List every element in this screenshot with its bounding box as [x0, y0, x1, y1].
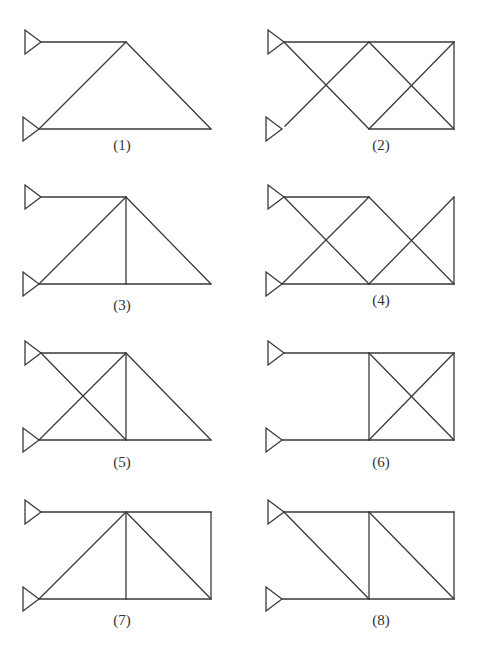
lower-pin-support-icon	[266, 428, 282, 452]
panel-label: (2)	[372, 137, 390, 154]
panel-6: (6)	[266, 341, 454, 471]
panel-label: (8)	[372, 612, 390, 629]
lower-pin-support-icon	[266, 587, 282, 611]
member-A-D	[284, 512, 369, 599]
panel-label: (7)	[113, 612, 131, 629]
panel-label: (3)	[113, 297, 131, 314]
lower-pin-support-icon	[23, 587, 39, 611]
panel-label: (5)	[113, 454, 131, 471]
upper-pin-support-icon	[268, 341, 284, 365]
upper-pin-support-icon	[268, 185, 284, 209]
panel-label: (1)	[113, 137, 131, 154]
upper-pin-support-icon	[25, 185, 41, 209]
upper-pin-support-icon	[25, 30, 41, 54]
member-B-C	[39, 512, 126, 599]
lower-pin-support-icon	[23, 428, 39, 452]
panel-2: (2)	[266, 30, 454, 154]
panel-1: (1)	[23, 30, 211, 154]
truss-figure: (1) (2) (3) (4) (5) (6) (7) (8)	[0, 0, 483, 654]
panel-7: (7)	[23, 500, 211, 629]
member-B-C	[39, 197, 126, 284]
lower-pin-support-icon	[266, 272, 282, 296]
panel-4: (4)	[266, 185, 454, 309]
member-B-C	[285, 42, 369, 126]
member-C-F	[126, 42, 211, 129]
member-C-F	[126, 353, 211, 440]
panel-label: (6)	[372, 454, 390, 471]
panel-8: (8)	[266, 500, 454, 629]
panel-3: (3)	[23, 185, 211, 314]
upper-pin-support-icon	[268, 500, 284, 524]
lower-pin-support-icon	[266, 117, 282, 141]
member-C-F	[369, 512, 454, 599]
panel-5: (5)	[23, 341, 211, 471]
lower-pin-support-icon	[23, 272, 39, 296]
member-B-C	[39, 42, 126, 129]
upper-pin-support-icon	[268, 30, 284, 54]
member-C-F	[126, 512, 211, 599]
member-C-F	[126, 197, 211, 284]
upper-pin-support-icon	[25, 500, 41, 524]
lower-pin-support-icon	[23, 117, 39, 141]
panel-label: (4)	[372, 292, 390, 309]
upper-pin-support-icon	[25, 341, 41, 365]
